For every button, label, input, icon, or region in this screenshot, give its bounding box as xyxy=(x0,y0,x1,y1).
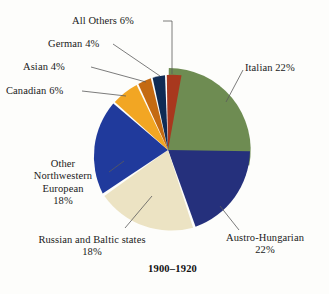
leader-line-austro xyxy=(220,206,239,230)
slice-label-russian-line1: Russian and Baltic states xyxy=(18,234,166,246)
slice-label-austro-line1: Austro-Hungarian xyxy=(210,232,320,244)
slice-label-asian: Asian 4% xyxy=(23,61,65,73)
pie-chart-figure: All Others 6% German 4% Asian 4% Canadia… xyxy=(0,0,329,294)
slice-label-german: German 4% xyxy=(48,38,99,50)
slice-label-russian-line2: 18% xyxy=(18,246,166,258)
slice-label-canadian: Canadian 6% xyxy=(6,85,63,97)
pie-slices xyxy=(94,68,251,231)
leader-line-canadian xyxy=(82,91,126,96)
chart-area: All Others 6% German 4% Asian 4% Canadia… xyxy=(0,0,329,294)
leader-line-asian xyxy=(91,67,146,82)
slice-label-other-northwestern-european: Other Northwestern European 18% xyxy=(22,158,104,208)
slice-label-all-others: All Others 6% xyxy=(72,15,134,27)
leader-line-german xyxy=(113,44,160,76)
slice-label-italian: Italian 22% xyxy=(245,62,295,74)
chart-caption: 1900–1920 xyxy=(148,263,197,274)
leader-line-italian xyxy=(226,70,243,102)
slice-label-russian-and-baltic-states: Russian and Baltic states 18% xyxy=(18,234,166,259)
leader-line-all-others xyxy=(163,21,172,74)
slice-label-other-nw-line1: Other xyxy=(22,158,104,170)
slice-label-other-nw-line3: European xyxy=(22,183,104,195)
slice-label-austro-line2: 22% xyxy=(210,244,320,256)
slice-label-other-nw-line4: 18% xyxy=(22,195,104,207)
slice-label-other-nw-line2: Northwestern xyxy=(22,170,104,182)
slice-label-austro-hungarian: Austro-Hungarian 22% xyxy=(210,232,320,257)
